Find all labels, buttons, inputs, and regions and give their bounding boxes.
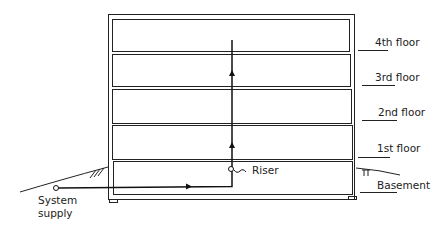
flow-arrows: [186, 70, 235, 190]
footing-left: [110, 200, 118, 203]
building-diagram: [0, 0, 443, 227]
label-4th-floor: 4th floor: [375, 37, 420, 48]
basement: [114, 162, 353, 195]
label-2nd-floor: 2nd floor: [378, 107, 425, 118]
label-1st-floor: 1st floor: [377, 143, 420, 154]
supply-pipe: [54, 40, 247, 191]
label-supply: supply: [38, 208, 73, 219]
hatch-right: [362, 170, 370, 176]
label-basement: Basement: [377, 180, 430, 191]
footing-right: [349, 197, 357, 200]
ground-right: [356, 168, 400, 175]
label-riser: Riser: [252, 165, 278, 176]
label-system: System: [38, 195, 77, 206]
label-3rd-floor: 3rd floor: [375, 72, 420, 83]
floor-4: [113, 20, 350, 52]
